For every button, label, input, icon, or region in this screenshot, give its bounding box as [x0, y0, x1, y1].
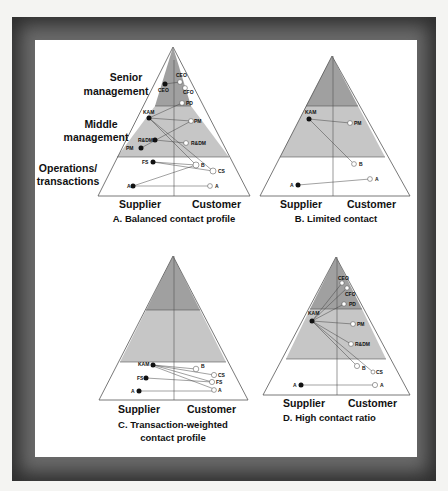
panel-a: CEOCEO CFOPD KAMPM R&DMR&DM PMFS BCS AA …	[37, 47, 250, 224]
svg-text:FS: FS	[142, 159, 149, 165]
svg-text:B: B	[201, 162, 205, 168]
caption-b: B. Limited contact	[295, 213, 378, 224]
customer-label: Customer	[187, 403, 236, 415]
supplier-label: Supplier	[280, 198, 322, 210]
layer-label-middle-2: management	[64, 131, 129, 143]
svg-text:CFO: CFO	[183, 89, 194, 95]
svg-text:PM: PM	[126, 145, 134, 151]
svg-text:R&DM: R&DM	[138, 137, 153, 143]
svg-text:CS: CS	[218, 372, 226, 378]
svg-text:PD: PD	[349, 301, 356, 307]
svg-text:B: B	[362, 365, 366, 371]
svg-text:CEO: CEO	[158, 87, 169, 93]
svg-text:PM: PM	[354, 120, 362, 126]
svg-text:KAM: KAM	[138, 361, 149, 367]
svg-text:KAM: KAM	[308, 310, 319, 316]
svg-text:A: A	[215, 183, 219, 189]
layer-label-operations-2: transactions	[37, 175, 100, 187]
supplier-label: Supplier	[118, 403, 160, 415]
svg-text:A: A	[380, 382, 384, 388]
contact-profile-diagrams: CEOCEO CFOPD KAMPM R&DMR&DM PMFS BCS AA …	[0, 0, 448, 491]
customer-label: Customer	[347, 198, 396, 210]
svg-text:A: A	[375, 176, 379, 182]
svg-text:A: A	[218, 387, 222, 393]
svg-text:A: A	[127, 183, 131, 189]
supplier-label: Supplier	[283, 397, 325, 409]
svg-text:B: B	[359, 161, 363, 167]
svg-text:CEO: CEO	[176, 72, 187, 78]
svg-text:PM: PM	[194, 118, 202, 124]
svg-text:CEO: CEO	[338, 275, 349, 281]
middle-band	[117, 106, 229, 157]
customer-label: Customer	[192, 198, 241, 210]
svg-text:PM: PM	[357, 321, 365, 327]
svg-text:CS: CS	[218, 168, 226, 174]
svg-text:B: B	[201, 363, 205, 369]
panel-d: CEOCFO PDKAM PMR&DM BCS AA Supplier Cust…	[263, 257, 410, 423]
svg-text:FS: FS	[137, 375, 144, 381]
panel-c: KAMB CSFS AFSA Supplier Customer C. Tran…	[99, 256, 248, 443]
layer-label-senior-2: management	[84, 85, 149, 97]
svg-text:FS: FS	[216, 379, 223, 385]
svg-text:A: A	[131, 388, 135, 394]
svg-text:CS: CS	[376, 369, 384, 375]
svg-text:R&DM: R&DM	[355, 341, 370, 347]
supplier-label: Supplier	[119, 198, 161, 210]
layer-label-operations: Operations/	[39, 162, 97, 174]
svg-text:A: A	[293, 382, 297, 388]
customer-label: Customer	[348, 397, 397, 409]
svg-text:KAM: KAM	[305, 109, 316, 115]
caption-c: C. Transaction-weighted	[118, 419, 228, 430]
panel-b: KAMPM BAA Supplier Customer B. Limited c…	[260, 56, 410, 224]
caption-d: D. High contact ratio	[283, 412, 376, 423]
caption-c-2: contact profile	[140, 432, 205, 443]
layer-label-middle: Middle	[84, 118, 117, 130]
svg-text:CFO: CFO	[345, 291, 356, 297]
svg-text:A: A	[290, 182, 294, 188]
layer-label-senior: Senior	[110, 71, 143, 83]
svg-text:KAM: KAM	[143, 109, 154, 115]
caption-a: A. Balanced contact profile	[113, 213, 235, 224]
svg-text:R&DM: R&DM	[191, 140, 206, 146]
svg-text:PD: PD	[186, 100, 193, 106]
